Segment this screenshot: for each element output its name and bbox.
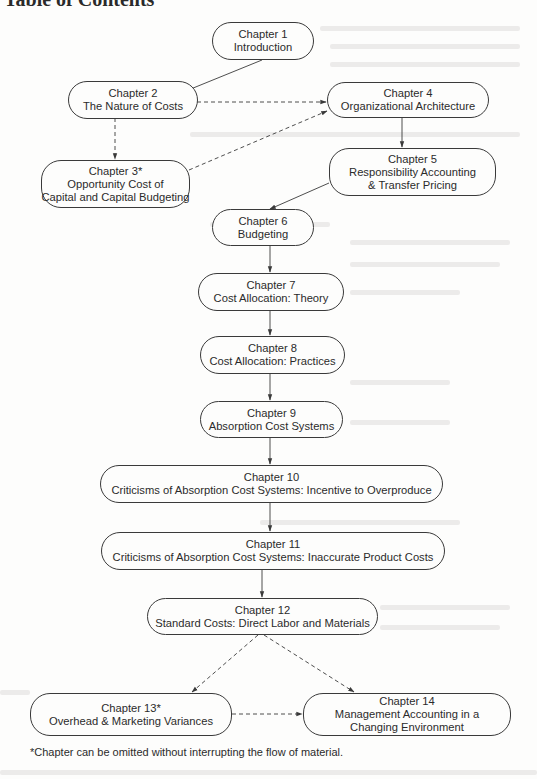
- chapter-node-11: Chapter 11 Criticisms of Absorption Cost…: [101, 532, 445, 570]
- chapter-number: Chapter 7: [246, 279, 295, 292]
- edge-ch3-ch4: [189, 111, 327, 170]
- chapter-number: Chapter 12: [235, 604, 290, 617]
- chapter-node-7: Chapter 7 Cost Allocation: Theory: [198, 273, 344, 311]
- edge-ch5-ch6: [270, 183, 329, 209]
- chapter-number: Chapter 13*: [101, 702, 161, 715]
- chapter-node-13: Chapter 13* Overhead & Marketing Varianc…: [30, 693, 232, 736]
- chapter-number: Chapter 10: [244, 471, 299, 484]
- chapter-node-2: Chapter 2 The Nature of Costs: [68, 81, 198, 119]
- chapter-title: Introduction: [234, 41, 292, 54]
- chapter-node-10: Chapter 10 Criticisms of Absorption Cost…: [100, 465, 443, 503]
- chapter-node-8: Chapter 8 Cost Allocation: Practices: [200, 336, 345, 374]
- chapter-title: Overhead & Marketing Variances: [49, 715, 213, 728]
- chapter-title: Organizational Architecture: [341, 100, 475, 113]
- chapter-title: Cost Allocation: Theory: [214, 292, 329, 305]
- chapter-title: & Transfer Pricing: [368, 179, 457, 192]
- edge-ch12-ch14: [264, 635, 354, 692]
- chapter-number: Chapter 4: [383, 87, 432, 100]
- chapter-title: Responsibility Accounting: [349, 166, 476, 179]
- chapter-number: Chapter 5: [388, 153, 437, 166]
- chapter-number: Chapter 6: [238, 215, 287, 228]
- chapter-title: The Nature of Costs: [83, 100, 183, 113]
- edge-ch12-ch13: [192, 635, 258, 692]
- chapter-node-4: Chapter 4 Organizational Architecture: [327, 82, 489, 118]
- chapter-number: Chapter 8: [248, 342, 297, 355]
- chapter-number: Chapter 14: [379, 695, 434, 708]
- chapter-title: Budgeting: [238, 228, 288, 241]
- chapter-node-5: Chapter 5 Responsibility Accounting & Tr…: [329, 148, 496, 196]
- chapter-title: Management Accounting in a: [335, 708, 479, 721]
- optional-chapter-footnote: *Chapter can be omitted without interrup…: [30, 746, 343, 758]
- chapter-node-9: Chapter 9 Absorption Cost Systems: [200, 401, 343, 438]
- chapter-node-3: Chapter 3* Opportunity Cost of Capital a…: [41, 160, 190, 208]
- chapter-title: Cost Allocation: Practices: [209, 355, 335, 368]
- chapter-title: Absorption Cost Systems: [209, 420, 335, 433]
- chapter-number: Chapter 9: [247, 407, 296, 420]
- chapter-title: Criticisms of Absorption Cost Systems: I…: [113, 551, 434, 564]
- chapter-number: Chapter 1: [238, 28, 287, 41]
- chapter-title: Standard Costs: Direct Labor and Materia…: [155, 617, 370, 630]
- chapter-title: Opportunity Cost of: [67, 178, 163, 191]
- chapter-node-6: Chapter 6 Budgeting: [212, 209, 314, 246]
- chapter-node-14: Chapter 14 Management Accounting in a Ch…: [303, 693, 511, 736]
- chapter-title: Changing Environment: [350, 721, 464, 734]
- chapter-node-1: Chapter 1 Introduction: [212, 22, 314, 60]
- chapter-node-12: Chapter 12 Standard Costs: Direct Labor …: [147, 598, 378, 635]
- chapter-title: Capital and Capital Budgeting: [41, 191, 189, 204]
- chapter-number: Chapter 2: [108, 87, 157, 100]
- chapter-title: Criticisms of Absorption Cost Systems: I…: [111, 484, 431, 497]
- chapter-number: Chapter 11: [246, 538, 301, 551]
- chapter-number: Chapter 3*: [89, 165, 143, 178]
